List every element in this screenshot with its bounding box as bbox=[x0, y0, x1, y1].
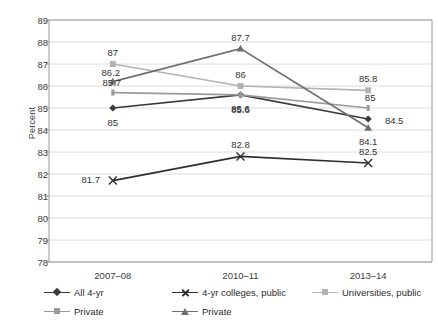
data-label: 84.5 bbox=[385, 115, 404, 126]
data-label: 85.6 bbox=[231, 102, 250, 113]
plot-area: Percent 898887868584838281807978 2007–08… bbox=[0, 0, 438, 282]
data-label: 84.1 bbox=[359, 135, 378, 146]
x-tick-label: 2007–08 bbox=[94, 270, 131, 281]
line-chart: Percent 898887868584838281807978 2007–08… bbox=[0, 0, 438, 330]
x-tick-label: 2010–11 bbox=[222, 270, 258, 281]
data-label: 81.7 bbox=[82, 173, 101, 184]
legend-label: Universities, public bbox=[342, 287, 421, 298]
legend-marker-line-icon bbox=[44, 306, 70, 316]
legend-item-2[interactable]: Universities, public bbox=[312, 284, 421, 300]
data-label: 86 bbox=[235, 69, 246, 80]
legend-label: 4-yr colleges, public bbox=[202, 287, 286, 298]
data-point-line bbox=[239, 92, 242, 98]
series-line-1 bbox=[113, 156, 368, 180]
data-label: 85.7 bbox=[103, 76, 122, 87]
data-label: 82.5 bbox=[359, 146, 378, 157]
data-point-triangle bbox=[364, 124, 372, 131]
data-point-diamond bbox=[109, 104, 116, 111]
legend-item-3[interactable]: Private bbox=[44, 303, 104, 319]
data-label: 82.8 bbox=[231, 139, 250, 150]
data-point-triangle bbox=[237, 45, 245, 52]
legend-marker-diamond-icon bbox=[44, 287, 70, 297]
legend-label: Private bbox=[74, 306, 104, 317]
data-point-line bbox=[111, 90, 114, 96]
data-label: 85.8 bbox=[359, 73, 378, 84]
data-label: 85 bbox=[108, 117, 119, 128]
data-point-square bbox=[238, 83, 244, 89]
data-label: 86.2 bbox=[102, 66, 121, 77]
legend-item-1[interactable]: 4-yr colleges, public bbox=[172, 284, 286, 300]
data-label: 85 bbox=[365, 92, 376, 103]
legend-marker-triangle-icon bbox=[172, 306, 198, 316]
data-label: 87.7 bbox=[231, 31, 250, 42]
data-point-diamond bbox=[365, 115, 372, 122]
legend-item-0[interactable]: All 4-yr bbox=[44, 284, 104, 300]
legend-marker-square-icon bbox=[312, 287, 338, 297]
x-tick-label: 2013–14 bbox=[350, 270, 387, 281]
data-label: 87 bbox=[108, 47, 119, 58]
data-point-line bbox=[367, 105, 370, 111]
legend-item-4[interactable]: Private bbox=[172, 303, 232, 319]
legend-label: Private bbox=[202, 306, 232, 317]
legend-label: All 4-yr bbox=[74, 287, 104, 298]
chart-legend: All 4-yr4-yr colleges, publicUniversitie… bbox=[0, 284, 438, 330]
legend-marker-cross-icon bbox=[172, 287, 198, 297]
